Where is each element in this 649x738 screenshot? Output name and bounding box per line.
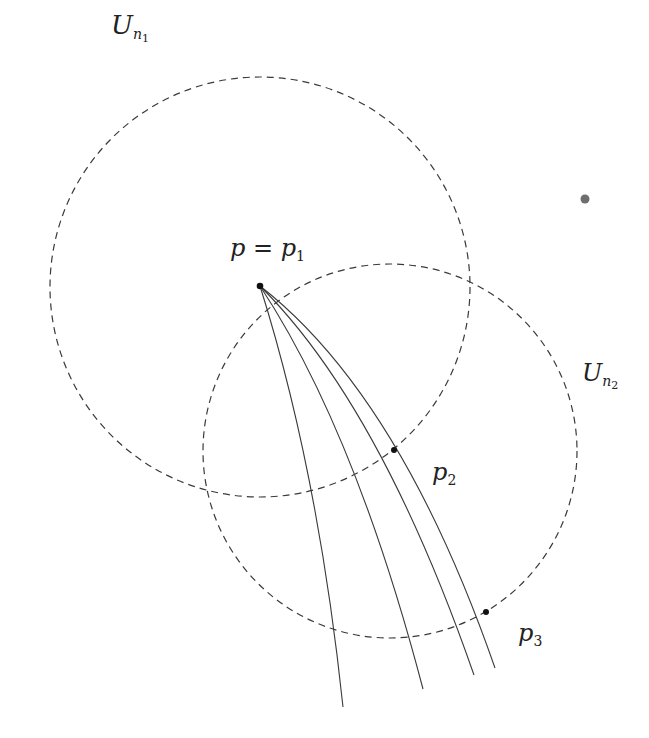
label-u-n1-base: U xyxy=(111,10,133,40)
label-u-n2: Un2 xyxy=(582,361,618,391)
label-p1-text: p = p xyxy=(230,234,296,262)
point-p1 xyxy=(257,283,264,290)
label-p3-text: p xyxy=(518,619,533,647)
diagram-canvas xyxy=(0,0,649,738)
label-p3: p3 xyxy=(518,621,542,648)
label-p3-sub: 3 xyxy=(533,633,542,649)
label-p2: p2 xyxy=(432,460,456,487)
label-u-n2-base: U xyxy=(582,359,602,387)
label-u-n1: Un1 xyxy=(111,12,149,44)
stray-dot xyxy=(581,195,590,204)
label-p2-sub: 2 xyxy=(447,472,456,488)
label-u-n1-subsub: 1 xyxy=(142,32,149,45)
label-u-n1-sub: n xyxy=(133,26,142,42)
label-u-n2-sub: n xyxy=(602,373,611,389)
point-p2 xyxy=(391,447,397,453)
label-p2-text: p xyxy=(432,458,447,486)
curve-2 xyxy=(260,286,423,689)
curve-4 xyxy=(260,286,495,668)
point-p3 xyxy=(483,609,489,615)
label-p1: p = p1 xyxy=(230,236,305,263)
label-u-n2-subsub: 2 xyxy=(611,379,618,392)
neighborhood-u-n2-circle xyxy=(203,264,577,638)
label-p1-sub: 1 xyxy=(296,248,305,264)
